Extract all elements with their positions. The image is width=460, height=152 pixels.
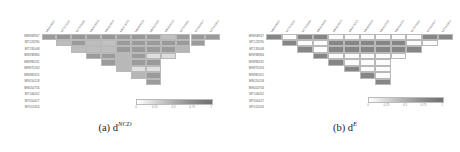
column-label-b-7: MN150118 xyxy=(378,19,389,33)
panel-b-caption: (b) dE xyxy=(230,120,460,133)
column-label-a-7: MN150118 xyxy=(149,19,160,33)
column-label-a-0: MN908947 xyxy=(44,19,55,33)
column-label-b-5: MN975263 xyxy=(347,19,358,33)
caption-a-prefix: (a) xyxy=(98,122,110,133)
colorbar-tick-a-0: 0 xyxy=(135,105,137,109)
colorbar-tick-b-4: 1 xyxy=(441,103,443,107)
heatmap-cell xyxy=(282,40,298,46)
heatmap-cell xyxy=(42,34,57,40)
row-label-b-8: MN054756 xyxy=(230,87,264,90)
column-label-b-8: MN054756 xyxy=(394,19,405,33)
heatmap-cell xyxy=(71,46,86,52)
heatmap-cell xyxy=(146,79,161,85)
colorbar-tick-b-1: 0.25 xyxy=(384,103,390,107)
colorbar-tick-b-2: 0.5 xyxy=(403,103,407,107)
caption-a-superscript: NCD xyxy=(118,120,132,127)
heatmap-cell xyxy=(313,53,329,59)
row-label-a-1: MT123290 xyxy=(0,41,40,44)
column-labels-b: MN908947MT123290MT135048MN938384MN996531… xyxy=(230,0,460,33)
column-label-b-0: MN908947 xyxy=(269,19,280,33)
column-label-a-1: MT123290 xyxy=(59,19,70,33)
row-labels-a: MN908947MT123290MT135048MN938384MN996531… xyxy=(0,34,40,111)
row-label-a-7: MN150118 xyxy=(0,80,40,83)
column-label-a-5: MN975263 xyxy=(119,19,130,33)
column-label-b-3: MN938384 xyxy=(316,19,327,33)
row-label-b-6: MN985325 xyxy=(230,74,264,77)
row-labels-b: MN908947MT123290MT135048MN938384MN996531… xyxy=(230,34,264,111)
heatmap-cell xyxy=(375,79,391,85)
column-label-a-4: MN996531 xyxy=(104,19,115,33)
row-label-b-10: MT050417 xyxy=(230,100,264,103)
colorbar-a: 00.250.50.751 xyxy=(136,99,211,111)
column-label-b-11: MT012416 xyxy=(441,19,452,33)
heatmap-cell xyxy=(360,72,376,78)
column-label-a-10: MT050417 xyxy=(193,19,204,33)
panel-a-ncd: MN908947MT123290MT135048MN938384MN996531… xyxy=(0,0,230,152)
row-label-a-6: MN985325 xyxy=(0,74,40,77)
column-label-b-9: MT106052 xyxy=(410,19,421,33)
heatmap-cell xyxy=(422,40,438,46)
colorbar-b: 00.250.50.751 xyxy=(368,97,442,109)
row-label-b-11: MT012416 xyxy=(230,106,264,109)
heatmap-cell xyxy=(116,66,131,72)
heatmap-cell xyxy=(297,46,313,52)
heatmap-cell xyxy=(101,59,116,65)
column-label-a-2: MT135048 xyxy=(74,19,85,33)
colorbar-tick-b-0: 0 xyxy=(367,103,369,107)
row-label-b-3: MN938384 xyxy=(230,54,264,57)
heatmap-cell xyxy=(56,40,71,46)
heatmap-cell xyxy=(328,59,344,65)
colorbar-tick-b-3: 0.75 xyxy=(421,103,427,107)
colorbar-tick-a-4: 1 xyxy=(210,105,212,109)
heatmap-cell xyxy=(391,53,407,59)
row-label-b-7: MN150118 xyxy=(230,80,264,83)
row-label-b-5: MN975263 xyxy=(230,67,264,70)
colorbar-tick-a-3: 0.75 xyxy=(189,105,195,109)
row-label-a-2: MT135048 xyxy=(0,48,40,51)
row-label-b-2: MT135048 xyxy=(230,48,264,51)
heatmap-cell xyxy=(205,34,220,40)
figure-two-heatmaps: MN908947MT123290MT135048MN938384MN996531… xyxy=(0,0,460,152)
row-label-b-0: MN908947 xyxy=(230,35,264,38)
panel-a-caption: (a) dNCD xyxy=(0,120,230,133)
heatmap-cell xyxy=(438,34,454,40)
row-label-b-9: MT106052 xyxy=(230,93,264,96)
heatmap-cell xyxy=(406,46,422,52)
row-label-a-4: MN996531 xyxy=(0,61,40,64)
heatmap-cell xyxy=(161,53,176,59)
heatmap-cell xyxy=(176,46,191,52)
row-label-a-3: MN938384 xyxy=(0,54,40,57)
colorbar-tick-a-1: 0.25 xyxy=(152,105,158,109)
row-label-a-11: MT012416 xyxy=(0,106,40,109)
column-label-a-3: MN938384 xyxy=(89,19,100,33)
panel-b-euclidean: MN908947MT123290MT135048MN938384MN996531… xyxy=(230,0,460,152)
column-label-a-11: MT012416 xyxy=(208,19,219,33)
heatmap-cell xyxy=(344,66,360,72)
column-label-a-8: MN054756 xyxy=(164,19,175,33)
row-label-b-1: MT123290 xyxy=(230,41,264,44)
caption-b-superscript: E xyxy=(353,120,357,127)
row-label-a-8: MN054756 xyxy=(0,87,40,90)
heatmap-cell xyxy=(131,72,146,78)
column-label-a-6: MN985325 xyxy=(134,19,145,33)
column-label-b-10: MT050417 xyxy=(425,19,436,33)
caption-b-prefix: (b) xyxy=(333,122,345,133)
column-label-b-1: MT123290 xyxy=(285,19,296,33)
heatmap-cell xyxy=(191,40,206,46)
row-label-a-9: MT106052 xyxy=(0,93,40,96)
row-label-b-4: MN996531 xyxy=(230,61,264,64)
column-label-b-4: MN996531 xyxy=(332,19,343,33)
heatmap-cell xyxy=(266,34,282,40)
colorbar-tick-a-2: 0.5 xyxy=(171,105,175,109)
column-labels-a: MN908947MT123290MT135048MN938384MN996531… xyxy=(0,0,230,33)
row-label-a-0: MN908947 xyxy=(0,35,40,38)
column-label-b-6: MN985325 xyxy=(363,19,374,33)
column-label-b-2: MT135048 xyxy=(300,19,311,33)
row-label-a-5: MN975263 xyxy=(0,67,40,70)
row-label-a-10: MT050417 xyxy=(0,100,40,103)
heatmap-cell xyxy=(86,53,101,59)
column-label-a-9: MT106052 xyxy=(179,19,190,33)
